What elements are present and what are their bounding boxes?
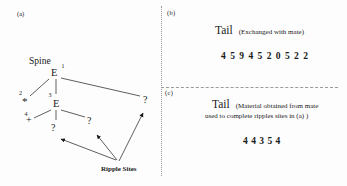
panel-b-heading: Tail (Exchanged with mate) <box>215 24 304 36</box>
edge-e3-plus <box>34 110 51 118</box>
node-plus-superscript: 4 <box>25 111 28 117</box>
horizontal-separator <box>161 87 338 88</box>
edge-e3-question-mid <box>61 110 85 117</box>
node-question-mid: ? <box>87 115 92 126</box>
node-question-left: ? <box>51 122 56 133</box>
spine-label: Spine <box>29 56 51 66</box>
panel-c-title: Tail <box>212 98 230 110</box>
arrow-ripple-to-question-right <box>119 113 143 161</box>
panel-b-subtitle: (Exchanged with mate) <box>239 28 304 36</box>
panel-c-subtitle-line2: used to complete ripples sites in (a) ) <box>205 112 308 120</box>
panel-c-subtitle-line1: (Material obtained from mate <box>236 102 319 110</box>
node-e1-superscript: 1 <box>62 63 65 69</box>
node-e1: E <box>51 67 57 78</box>
panel-c-heading: Tail (Material obtained from mate <box>212 98 318 110</box>
node-star-superscript: 2 <box>19 90 22 96</box>
node-e3: E <box>53 98 59 109</box>
node-e3-superscript: 3 <box>49 92 52 98</box>
panel-b-label: (b) <box>167 9 175 16</box>
node-question-right: ? <box>143 94 148 105</box>
figure-container: (a) Spine E 1 E 3 * 2 + 4 ? ? ? Ripple S… <box>0 0 347 186</box>
panel-c-label: (c) <box>165 89 173 96</box>
vertical-separator <box>161 6 162 176</box>
panel-b-sequence: 4 5 9 4 5 2 0 5 2 2 <box>221 51 309 61</box>
panel-a-label: (a) <box>17 10 24 18</box>
panel-a-diagram: (a) Spine E 1 E 3 * 2 + 4 ? ? ? Ripple S… <box>0 0 161 186</box>
ripple-sites-label: Ripple Sites <box>101 165 137 173</box>
node-star: * <box>22 95 28 107</box>
panel-c-sequence: 4 4 3 5 4 <box>243 136 281 146</box>
edge-e1-question-right <box>61 78 140 96</box>
edge-e1-star <box>30 79 49 96</box>
panel-b-title: Tail <box>215 24 233 36</box>
arrow-ripple-to-question-left <box>61 139 116 160</box>
